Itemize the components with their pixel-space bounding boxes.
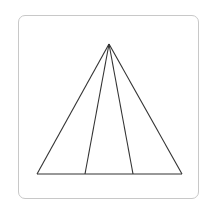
inner-right-line — [109, 44, 133, 174]
right-side — [109, 44, 182, 174]
inner-left-line — [85, 44, 109, 174]
triangle-figure — [0, 0, 209, 203]
left-side — [37, 44, 109, 174]
